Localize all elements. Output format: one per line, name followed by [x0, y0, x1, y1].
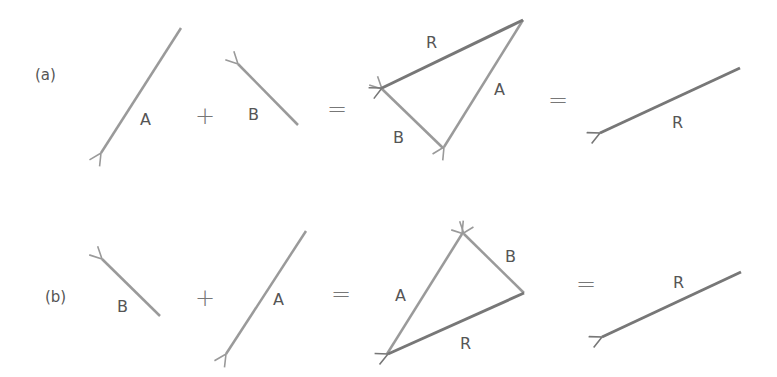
vector-a-row-a: [101, 28, 181, 153]
label-a-row-a: A: [140, 110, 151, 129]
vector-b-row-a: [238, 64, 298, 125]
equals-sign-b1: =: [331, 280, 351, 308]
equals-sign-a1: =: [327, 95, 347, 123]
vector-b-row-b: [102, 259, 160, 316]
triangle-b-label-a: A: [395, 286, 406, 305]
vector-r-row-b: [602, 272, 741, 337]
triangle-row-b: [387, 234, 524, 354]
equals-sign-b2: =: [576, 270, 596, 298]
part-label-b: (b): [45, 288, 66, 306]
label-b-row-a: B: [248, 105, 259, 124]
label-r-row-b: R: [673, 273, 684, 292]
triangle-a-label-b: B: [393, 128, 404, 147]
part-label-a: (a): [35, 66, 56, 84]
triangle-a-label-a: A: [494, 80, 505, 99]
triangle-b-label-r: R: [460, 334, 471, 353]
vector-r-row-a: [600, 68, 740, 133]
triangle-a-label-r: R: [426, 33, 437, 52]
vector-addition-diagram: (a) A + B = R A B = R (b) B + A = A: [0, 0, 777, 377]
vector-a-row-b: [226, 231, 306, 354]
label-b-row-b: B: [117, 297, 128, 316]
plus-sign-b: +: [195, 284, 215, 312]
plus-sign-a: +: [195, 102, 215, 130]
equals-sign-a2: =: [548, 86, 568, 114]
triangle-b-label-b: B: [505, 247, 516, 266]
label-r-row-a: R: [672, 113, 683, 132]
label-a-row-b: A: [273, 290, 284, 309]
